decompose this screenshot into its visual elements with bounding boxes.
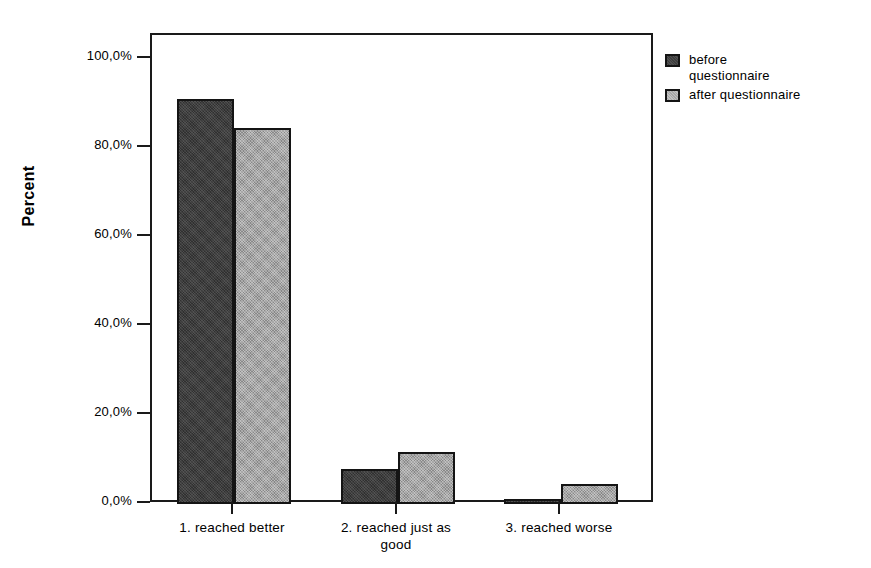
y-axis-tick-mark [137, 501, 150, 503]
y-axis-tick-mark [137, 323, 150, 325]
x-axis-tick-mark [395, 502, 397, 514]
x-axis-tick-mark [558, 502, 560, 514]
y-axis-tick-label: 80,0% [94, 137, 132, 152]
y-axis-tick-mark [137, 56, 150, 58]
bar-chart: Percent 0,0%20,0%40,0%60,0%80,0%100,0% 1… [0, 0, 871, 568]
legend-item-after: after questionnaire [665, 87, 865, 103]
plot-area [150, 33, 653, 502]
legend-label-before: before questionnaire [689, 52, 770, 84]
bar-2-before [341, 469, 398, 504]
y-axis-tick-label: 100,0% [87, 48, 132, 63]
legend-item-before: before questionnaire [665, 52, 865, 84]
y-axis-tick-mark [137, 234, 150, 236]
bar-1-after [234, 128, 291, 504]
y-axis-tick-label: 60,0% [94, 226, 132, 241]
y-axis-tick-mark [137, 412, 150, 414]
y-axis-tick-label: 40,0% [94, 315, 132, 330]
bar-3-after [561, 484, 618, 504]
legend-label-after: after questionnaire [689, 87, 800, 103]
bar-1-before [177, 99, 234, 504]
y-axis-tick-mark [137, 145, 150, 147]
legend-swatch-after-icon [665, 89, 680, 102]
legend-swatch-before-icon [665, 54, 680, 67]
bar-2-after [398, 452, 455, 504]
y-axis-title: Percent [17, 136, 41, 256]
y-axis-tick-label: 20,0% [94, 404, 132, 419]
y-axis-tick-label: 0,0% [102, 493, 132, 508]
legend: before questionnaire after questionnaire [665, 52, 865, 106]
bar-3-before [504, 499, 561, 504]
x-axis-tick-mark [231, 502, 233, 514]
x-axis-tick-label: 3. reached worse [454, 519, 664, 536]
